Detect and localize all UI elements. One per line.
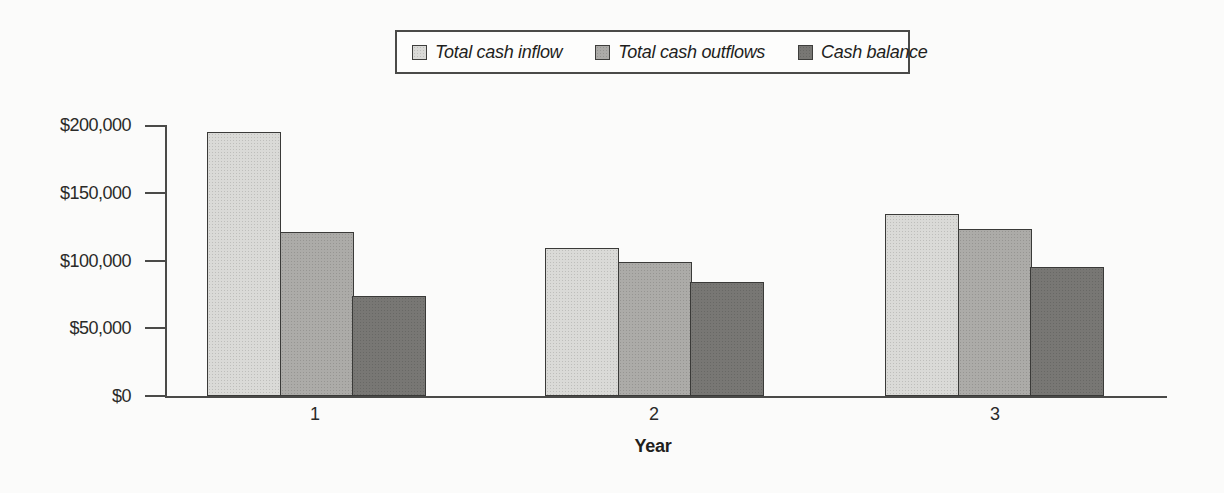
- y-axis-tick-0: [145, 395, 167, 397]
- y-axis-tick-label-1: $50,000: [21, 318, 131, 338]
- bar-total-cash-outflows-year-2: [618, 262, 692, 396]
- y-axis-tick-label-2: $100,000: [21, 251, 131, 271]
- bar-group-year-2: [545, 248, 763, 396]
- y-axis-tick-4: [145, 125, 167, 127]
- legend-item-total-cash-outflows: Total cash outflows: [595, 42, 765, 63]
- legend-label-cash-balance: Cash balance: [821, 42, 927, 63]
- plot-area: $0$50,000$100,000$150,000$200,000: [165, 125, 1167, 398]
- bar-cash-balance-year-1: [352, 296, 426, 396]
- x-category-label-year-1: 1: [275, 404, 355, 425]
- bar-total-cash-inflow-year-3: [885, 214, 959, 396]
- bar-cash-balance-year-3: [1030, 267, 1104, 396]
- legend-swatch-total-cash-outflows: [595, 45, 610, 60]
- bar-total-cash-inflow-year-1: [207, 132, 281, 396]
- x-category-label-year-3: 3: [955, 404, 1035, 425]
- bar-total-cash-outflows-year-3: [958, 229, 1032, 396]
- x-category-label-year-2: 2: [614, 404, 694, 425]
- legend-swatch-cash-balance: [798, 45, 813, 60]
- cash-flow-bar-chart: Total cash inflow Total cash outflows Ca…: [0, 0, 1224, 493]
- y-axis-tick-3: [145, 192, 167, 194]
- y-axis-tick-1: [145, 327, 167, 329]
- bar-group-year-1: [207, 132, 425, 396]
- bar-total-cash-outflows-year-1: [280, 232, 354, 396]
- legend-item-cash-balance: Cash balance: [798, 42, 927, 63]
- y-axis-tick-2: [145, 260, 167, 262]
- legend-item-total-cash-inflow: Total cash inflow: [412, 42, 562, 63]
- legend-label-total-cash-outflows: Total cash outflows: [618, 42, 765, 63]
- y-axis-tick-label-4: $200,000: [21, 115, 131, 135]
- legend-swatch-total-cash-inflow: [412, 45, 427, 60]
- legend-label-total-cash-inflow: Total cash inflow: [435, 42, 562, 63]
- y-axis-tick-label-0: $0: [21, 386, 131, 406]
- x-axis-title: Year: [613, 436, 693, 457]
- bar-cash-balance-year-2: [690, 282, 764, 396]
- bar-total-cash-inflow-year-2: [545, 248, 619, 396]
- y-axis-tick-label-3: $150,000: [21, 183, 131, 203]
- chart-legend: Total cash inflow Total cash outflows Ca…: [395, 30, 910, 74]
- bar-group-year-3: [885, 214, 1103, 396]
